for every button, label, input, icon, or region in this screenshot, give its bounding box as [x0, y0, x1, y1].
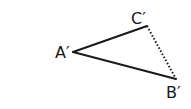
triangle-diagram: A′ C′ B′: [0, 0, 191, 109]
edge-c-b-dotted: [147, 26, 176, 79]
edge-a-b: [73, 52, 176, 79]
vertex-label-c: C′: [131, 9, 146, 28]
vertex-label-a: A′: [55, 43, 70, 62]
vertex-label-b: B′: [166, 83, 181, 102]
edge-a-c: [73, 26, 147, 52]
